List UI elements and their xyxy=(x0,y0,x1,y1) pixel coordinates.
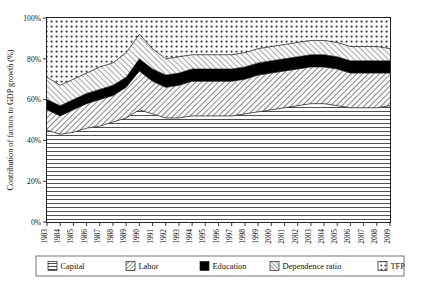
x-tick-label-1991: 1991 xyxy=(146,229,155,244)
x-tick-label-1986: 1986 xyxy=(80,229,89,244)
x-tick-label-2004: 2004 xyxy=(317,229,326,244)
plot-area-bands xyxy=(47,18,390,222)
y-tick-label: 40% xyxy=(27,136,42,145)
legend-label-dependence-ratio: Dependence ratio xyxy=(283,262,342,271)
legend-swatch-capital xyxy=(48,262,57,271)
stacked-area-chart: 0%20%40%60%80%100% 198319841985198619871… xyxy=(0,0,424,282)
x-tick-label-1984: 1984 xyxy=(53,229,62,244)
x-tick-label-1989: 1989 xyxy=(119,229,128,244)
x-tick-label-1994: 1994 xyxy=(185,229,194,244)
legend-swatch-tfp xyxy=(378,262,387,271)
x-tick-label-2006: 2006 xyxy=(343,229,352,244)
x-tick-label-2009: 2009 xyxy=(383,229,392,244)
x-tick-label-1993: 1993 xyxy=(172,229,181,244)
y-axis-title: Contribution of factors to GDP growth (%… xyxy=(6,49,15,190)
x-tick-label-1996: 1996 xyxy=(212,229,221,244)
legend-label-tfp: TFP xyxy=(391,262,406,271)
y-tick-label: 80% xyxy=(27,55,42,64)
legend-swatch-dependence-ratio xyxy=(270,262,279,271)
legend-label-labor: Labor xyxy=(139,262,159,271)
x-tick-label-1990: 1990 xyxy=(132,229,141,244)
x-axis: 1983198419851986198719881989199019911992… xyxy=(40,222,392,244)
x-tick-label-1983: 1983 xyxy=(40,229,49,244)
x-tick-label-2000: 2000 xyxy=(264,229,273,244)
x-tick-label-2002: 2002 xyxy=(291,229,300,244)
x-tick-label-1998: 1998 xyxy=(238,229,247,244)
x-tick-label-2003: 2003 xyxy=(304,229,313,244)
y-tick-label: 60% xyxy=(27,95,42,104)
x-tick-label-2008: 2008 xyxy=(370,229,379,244)
x-tick-label-2001: 2001 xyxy=(277,229,286,244)
y-tick-label: 20% xyxy=(27,177,42,186)
y-tick-label: 0% xyxy=(31,218,42,227)
x-tick-label-1997: 1997 xyxy=(225,229,234,244)
chart-figure: 0%20%40%60%80%100% 198319841985198619871… xyxy=(0,0,424,282)
x-tick-label-1992: 1992 xyxy=(159,229,168,244)
chart-legend: CapitalLaborEducationDependence ratioTFP xyxy=(36,256,405,276)
x-tick-label-1999: 1999 xyxy=(251,229,260,244)
x-tick-label-1988: 1988 xyxy=(106,229,115,244)
legend-swatch-education xyxy=(200,262,209,271)
x-tick-label-1985: 1985 xyxy=(66,229,75,244)
x-tick-label-1995: 1995 xyxy=(198,229,207,244)
legend-label-capital: Capital xyxy=(61,262,86,271)
x-tick-label-2007: 2007 xyxy=(357,229,366,244)
x-tick-label-1987: 1987 xyxy=(93,229,102,244)
y-axis: 0%20%40%60%80%100% xyxy=(23,14,47,227)
x-tick-label-2005: 2005 xyxy=(330,229,339,244)
legend-swatch-labor xyxy=(126,262,135,271)
legend-label-education: Education xyxy=(213,262,248,271)
y-tick-label: 100% xyxy=(23,14,41,23)
